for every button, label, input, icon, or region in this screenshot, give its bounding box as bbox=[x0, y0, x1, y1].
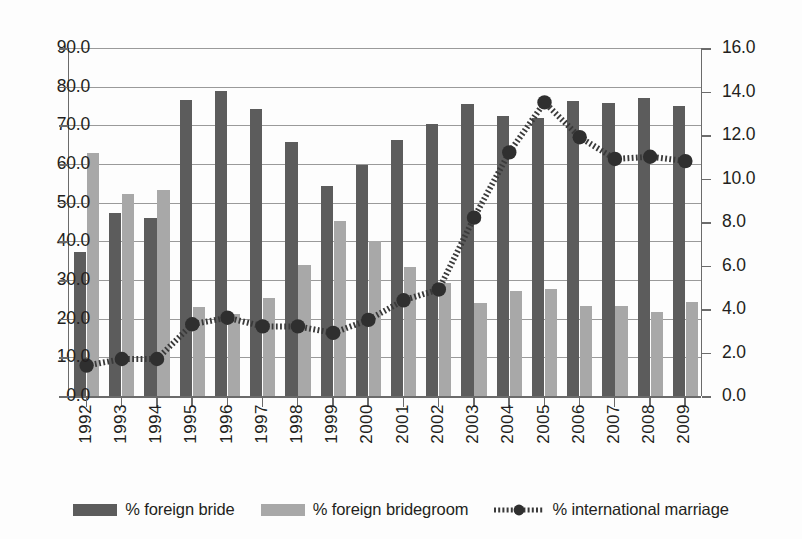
right-axis-tick-label: 10.0 bbox=[722, 170, 802, 188]
bar-foreign-bride bbox=[180, 100, 192, 396]
bar-foreign-bride bbox=[356, 165, 368, 396]
x-axis-label-1998: 1998 bbox=[288, 404, 305, 444]
bar-foreign-bridegroom bbox=[474, 303, 486, 396]
left-axis-tick-label: 10.0 bbox=[10, 348, 90, 366]
bar-foreign-bridegroom bbox=[122, 194, 134, 396]
legend-label-international-marriage: % international marriage bbox=[552, 500, 728, 519]
bar-foreign-bridegroom bbox=[157, 190, 169, 396]
bar-foreign-bride bbox=[461, 104, 473, 396]
left-axis-tick-label: 80.0 bbox=[10, 78, 90, 96]
left-axis-tick-label: 60.0 bbox=[10, 155, 90, 173]
x-axis-label-2004: 2004 bbox=[499, 404, 516, 444]
bar-foreign-bride bbox=[673, 106, 685, 396]
left-axis-tick-mark bbox=[59, 87, 68, 89]
left-axis-tick-label: 40.0 bbox=[10, 232, 90, 250]
x-axis-label-2003: 2003 bbox=[464, 404, 481, 444]
bar-foreign-bride bbox=[497, 116, 509, 396]
bar-foreign-bride bbox=[215, 91, 227, 396]
right-axis-tick-label: 6.0 bbox=[722, 257, 802, 275]
x-axis-label-2001: 2001 bbox=[394, 404, 411, 444]
bar-foreign-bride bbox=[109, 213, 121, 396]
bar-foreign-bridegroom bbox=[510, 291, 522, 396]
x-axis-label-2009: 2009 bbox=[675, 404, 692, 444]
dark-bar-swatch-icon bbox=[73, 504, 117, 516]
chart-container: 0.010.020.030.040.050.060.070.080.090.0 … bbox=[0, 0, 802, 539]
legend-item-foreign-bride: % foreign bride bbox=[73, 500, 234, 519]
left-axis-tick-mark bbox=[59, 319, 68, 321]
bar-foreign-bridegroom bbox=[334, 221, 346, 396]
bar-foreign-bride bbox=[532, 118, 544, 396]
bar-foreign-bride bbox=[602, 103, 614, 396]
bar-foreign-bride bbox=[285, 142, 297, 396]
bar-foreign-bridegroom bbox=[686, 302, 698, 396]
right-axis-tick-mark bbox=[702, 353, 711, 355]
bar-foreign-bride bbox=[426, 124, 438, 396]
legend-item-international-marriage: % international marriage bbox=[494, 500, 728, 519]
right-axis-tick-mark bbox=[702, 135, 711, 137]
left-axis-tick-label: 90.0 bbox=[10, 39, 90, 57]
gridline bbox=[69, 48, 701, 49]
bar-foreign-bridegroom bbox=[369, 241, 381, 396]
left-axis-tick-mark bbox=[59, 125, 68, 127]
plot-area bbox=[68, 48, 702, 396]
left-axis-tick-label: 50.0 bbox=[10, 194, 90, 212]
bar-foreign-bride bbox=[250, 109, 262, 396]
left-axis-tick-mark bbox=[59, 357, 68, 359]
bar-foreign-bride bbox=[321, 186, 333, 396]
x-axis-category-labels: 1992199319941995199619971998199920002001… bbox=[68, 398, 702, 486]
x-axis-label-2000: 2000 bbox=[358, 404, 375, 444]
bar-foreign-bridegroom bbox=[439, 283, 451, 396]
right-axis-tick-label: 16.0 bbox=[722, 39, 802, 57]
right-axis-tick-label: 12.0 bbox=[722, 126, 802, 144]
bar-foreign-bride bbox=[567, 101, 579, 396]
right-axis-tick-mark bbox=[702, 309, 711, 311]
right-axis-tick-mark bbox=[702, 92, 711, 94]
bar-foreign-bridegroom bbox=[404, 267, 416, 396]
x-axis-label-1993: 1993 bbox=[112, 404, 129, 444]
x-axis-label-1999: 1999 bbox=[323, 404, 340, 444]
right-axis-tick-label: 14.0 bbox=[722, 83, 802, 101]
x-axis-label-1995: 1995 bbox=[182, 404, 199, 444]
x-axis-label-1997: 1997 bbox=[253, 404, 270, 444]
x-axis-label-2007: 2007 bbox=[605, 404, 622, 444]
left-axis-tick-mark bbox=[59, 396, 68, 398]
left-axis-tick-mark bbox=[59, 48, 68, 50]
right-axis-tick-label: 2.0 bbox=[722, 344, 802, 362]
bar-foreign-bridegroom bbox=[193, 307, 205, 396]
legend-label-foreign-bride: % foreign bride bbox=[125, 500, 234, 519]
right-axis-tick-label: 8.0 bbox=[722, 213, 802, 231]
x-axis-label-2005: 2005 bbox=[535, 404, 552, 444]
x-axis-label-2008: 2008 bbox=[640, 404, 657, 444]
left-axis-tick-mark bbox=[59, 203, 68, 205]
legend-label-foreign-bridegroom: % foreign bridegroom bbox=[313, 500, 469, 519]
right-axis-tick-mark bbox=[702, 396, 711, 398]
bar-foreign-bride bbox=[638, 98, 650, 397]
right-axis-tick-label: 4.0 bbox=[722, 300, 802, 318]
bar-foreign-bride bbox=[144, 218, 156, 396]
chart-legend: % foreign bride % foreign bridegroom % i… bbox=[0, 500, 802, 519]
gridline bbox=[69, 87, 701, 88]
dashed-line-marker-swatch-icon bbox=[494, 503, 544, 517]
left-axis-tick-mark bbox=[59, 164, 68, 166]
bar-foreign-bridegroom bbox=[228, 314, 240, 396]
bar-foreign-bridegroom bbox=[545, 289, 557, 396]
left-axis-tick-label: 70.0 bbox=[10, 116, 90, 134]
bar-foreign-bridegroom bbox=[580, 306, 592, 396]
bar-foreign-bridegroom bbox=[615, 306, 627, 396]
light-bar-swatch-icon bbox=[261, 504, 305, 516]
x-axis-label-1996: 1996 bbox=[218, 404, 235, 444]
left-axis-tick-mark bbox=[59, 241, 68, 243]
right-axis-tick-label: 0.0 bbox=[722, 387, 802, 405]
x-axis-label-2002: 2002 bbox=[429, 404, 446, 444]
bar-foreign-bridegroom bbox=[298, 265, 310, 396]
right-axis-tick-mark bbox=[702, 48, 711, 50]
left-axis-tick-mark bbox=[59, 280, 68, 282]
right-axis-tick-mark bbox=[702, 222, 711, 224]
right-axis-tick-mark bbox=[702, 266, 711, 268]
bar-foreign-bridegroom bbox=[263, 298, 275, 396]
x-axis-label-2006: 2006 bbox=[570, 404, 587, 444]
bar-foreign-bridegroom bbox=[651, 312, 663, 396]
legend-item-foreign-bridegroom: % foreign bridegroom bbox=[261, 500, 469, 519]
x-axis-label-1994: 1994 bbox=[147, 404, 164, 444]
left-axis-tick-label: 20.0 bbox=[10, 310, 90, 328]
